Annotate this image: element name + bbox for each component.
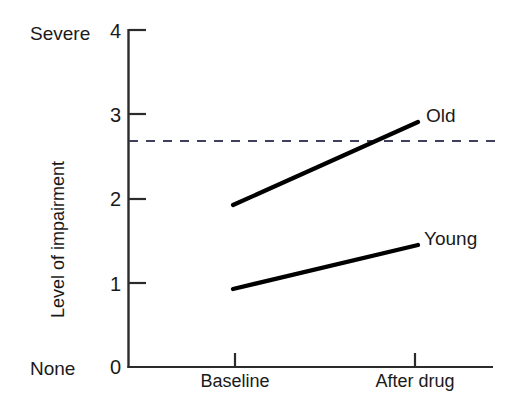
- y-tick-label-4: 4: [99, 21, 121, 41]
- x-tick-label-after-drug: After drug: [358, 372, 472, 390]
- y-tick-label-1: 1: [99, 274, 121, 294]
- series-line-young: [233, 245, 418, 289]
- y-tick-label-0: 0: [99, 357, 121, 377]
- y-axis-anchor-severe: Severe: [30, 24, 90, 43]
- y-tick-label-3: 3: [99, 105, 121, 125]
- impairment-line-chart: Level of impairment Severe None 4 3 2 1 …: [0, 0, 518, 410]
- y-axis-title: Level of impairment: [48, 161, 69, 318]
- series-label-old: Old: [426, 106, 456, 125]
- series-line-old: [233, 122, 418, 205]
- y-tick-label-2: 2: [99, 189, 121, 209]
- y-axis-anchor-none: None: [30, 359, 75, 378]
- x-tick-label-baseline: Baseline: [185, 372, 285, 390]
- series-label-young: Young: [424, 229, 477, 248]
- chart-plot-area: [0, 0, 518, 410]
